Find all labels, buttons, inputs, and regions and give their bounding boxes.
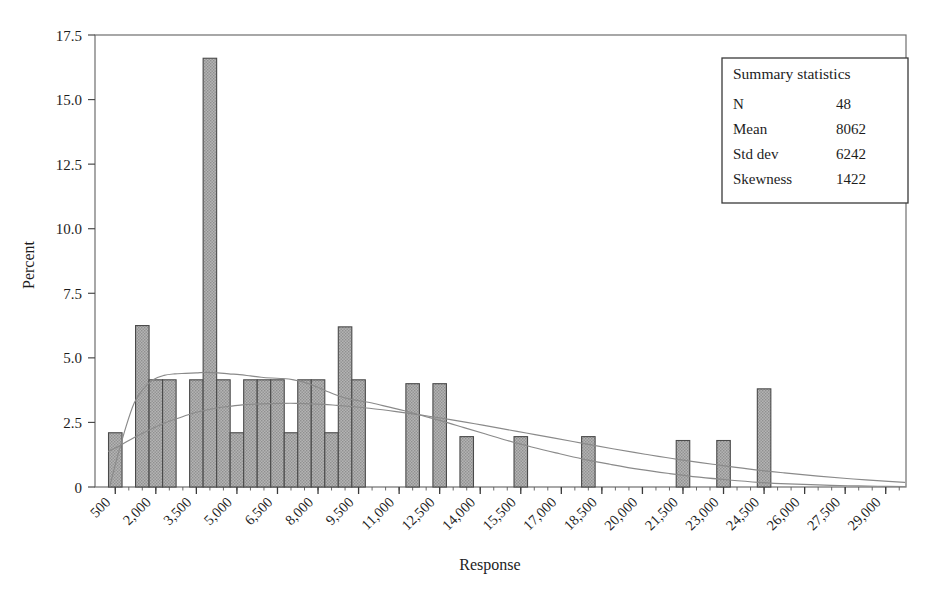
histogram-bar bbox=[217, 380, 231, 487]
histogram-bar bbox=[230, 433, 244, 487]
summary-row-label-0: N bbox=[733, 96, 744, 112]
histogram-bar bbox=[298, 380, 312, 487]
y-tick-label-5: 12.5 bbox=[56, 157, 82, 173]
histogram-bar bbox=[433, 384, 447, 487]
histogram-bar bbox=[257, 380, 271, 487]
x-axis-title: Response bbox=[459, 556, 520, 574]
histogram-bar bbox=[311, 380, 325, 487]
histogram-bar bbox=[149, 380, 163, 487]
y-tick-label-7: 17.5 bbox=[56, 28, 82, 44]
histogram-figure: 02.55.07.510.012.515.017.5 5002,0003,500… bbox=[0, 0, 926, 596]
histogram-bar bbox=[284, 433, 298, 487]
histogram-bar bbox=[136, 326, 150, 487]
y-axis-title: Percent bbox=[20, 240, 37, 289]
y-tick-label-3: 7.5 bbox=[63, 286, 82, 302]
histogram-bar bbox=[325, 433, 339, 487]
summary-row-label-2: Std dev bbox=[733, 146, 779, 162]
histogram-bar bbox=[676, 441, 690, 487]
y-tick-label-0: 0 bbox=[75, 480, 83, 496]
histogram-bar bbox=[460, 437, 474, 487]
summary-row-value-2: 6242 bbox=[836, 146, 866, 162]
summary-row-value-3: 1422 bbox=[836, 171, 866, 187]
summary-row-label-3: Skewness bbox=[733, 171, 792, 187]
y-tick-label-4: 10.0 bbox=[56, 221, 82, 237]
histogram-bar bbox=[244, 380, 258, 487]
histogram-bar bbox=[190, 380, 204, 487]
summary-box-title: Summary statistics bbox=[733, 65, 851, 82]
histogram-bar bbox=[271, 380, 285, 487]
summary-row-label-1: Mean bbox=[733, 121, 768, 137]
histogram-bar bbox=[757, 389, 771, 487]
histogram-bar bbox=[203, 58, 217, 487]
y-tick-label-6: 15.0 bbox=[56, 92, 82, 108]
chart-canvas: 02.55.07.510.012.515.017.5 5002,0003,500… bbox=[0, 0, 926, 596]
summary-row-value-0: 48 bbox=[836, 96, 851, 112]
histogram-bar bbox=[352, 380, 366, 487]
histogram-bar bbox=[109, 433, 123, 487]
y-tick-label-2: 5.0 bbox=[63, 350, 82, 366]
summary-statistics-box: Summary statistics N 48 Mean 8062 Std de… bbox=[722, 58, 908, 203]
histogram-bar bbox=[163, 380, 177, 487]
summary-row-value-1: 8062 bbox=[836, 121, 866, 137]
histogram-bar bbox=[406, 384, 420, 487]
y-tick-label-1: 2.5 bbox=[63, 415, 82, 431]
